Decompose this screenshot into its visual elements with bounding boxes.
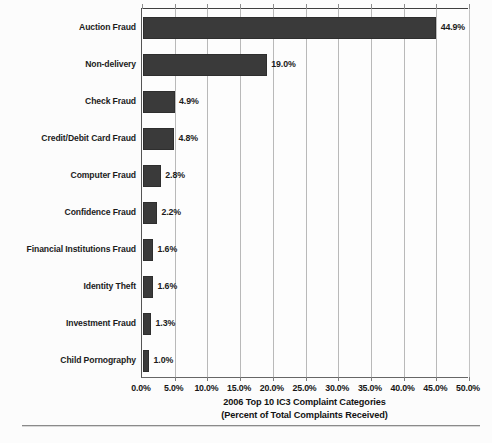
chart-title-block: 2006 Top 10 IC3 Complaint Categories (Pe… xyxy=(141,396,468,422)
x-tick-label: 0.0% xyxy=(131,383,150,393)
x-tick-label: 20.0% xyxy=(260,383,284,393)
x-axis-tick-labels: 0.0%5.0%10.0%15.0%20.0%25.0%30.0%35.0%40… xyxy=(141,383,468,397)
value-label: 2.8% xyxy=(165,170,185,180)
x-tick-label: 10.0% xyxy=(194,383,218,393)
category-label: Non-delivery xyxy=(85,59,136,69)
category-label: Auction Fraud xyxy=(79,22,136,32)
category-label: Financial Institutions Fraud xyxy=(27,244,136,254)
x-tick-label: 30.0% xyxy=(325,383,349,393)
plot-area: Auction Fraud44.9%Non-delivery19.0%Check… xyxy=(141,8,468,378)
x-tick-label: 35.0% xyxy=(358,383,382,393)
value-label: 1.6% xyxy=(157,281,177,291)
bar xyxy=(143,350,150,372)
bar-row: Computer Fraud2.8% xyxy=(142,157,468,194)
bar xyxy=(143,165,161,187)
bar xyxy=(143,54,267,76)
x-tick-label: 40.0% xyxy=(391,383,415,393)
axis-tick-mark xyxy=(469,377,470,381)
bar-row: Non-delivery19.0% xyxy=(142,46,468,83)
bar-row: Auction Fraud44.9% xyxy=(142,9,468,46)
category-label: Child Pornography xyxy=(60,355,136,365)
bar-row: Confidence Fraud2.2% xyxy=(142,194,468,231)
bar-row: Investment Fraud1.3% xyxy=(142,305,468,342)
value-label: 1.0% xyxy=(154,355,174,365)
value-label: 4.8% xyxy=(178,133,198,143)
bar-row: Child Pornography1.0% xyxy=(142,342,468,379)
bar-row: Check Fraud4.9% xyxy=(142,83,468,120)
category-label: Identity Theft xyxy=(83,281,136,291)
value-label: 1.6% xyxy=(157,244,177,254)
chart-subtitle: (Percent of Total Complaints Received) xyxy=(141,409,468,422)
bar xyxy=(143,91,175,113)
bar xyxy=(143,17,437,39)
x-tick-label: 15.0% xyxy=(227,383,251,393)
axis-tick-mark xyxy=(469,4,470,9)
bar xyxy=(143,276,153,298)
x-tick-label: 5.0% xyxy=(164,383,183,393)
category-label: Check Fraud xyxy=(85,96,136,106)
bar-row: Financial Institutions Fraud1.6% xyxy=(142,231,468,268)
bar-row: Identity Theft1.6% xyxy=(142,268,468,305)
gridline xyxy=(469,9,470,377)
bar xyxy=(143,202,157,224)
bar xyxy=(143,128,174,150)
category-label: Computer Fraud xyxy=(71,170,136,180)
category-label: Confidence Fraud xyxy=(65,207,136,217)
x-tick-label: 45.0% xyxy=(423,383,447,393)
category-label: Investment Fraud xyxy=(66,318,136,328)
x-tick-label: 25.0% xyxy=(293,383,317,393)
bar xyxy=(143,313,152,335)
x-tick-label: 50.0% xyxy=(456,383,480,393)
bar-row: Credit/Debit Card Fraud4.8% xyxy=(142,120,468,157)
category-label: Credit/Debit Card Fraud xyxy=(41,133,136,143)
bottom-divider-rule xyxy=(22,425,480,427)
value-label: 1.3% xyxy=(156,318,176,328)
value-label: 4.9% xyxy=(179,96,199,106)
bar xyxy=(143,239,153,261)
value-label: 19.0% xyxy=(271,59,295,69)
value-label: 2.2% xyxy=(161,207,181,217)
value-label: 44.9% xyxy=(441,22,465,32)
chart-title: 2006 Top 10 IC3 Complaint Categories xyxy=(141,396,468,409)
chart-figure: Auction Fraud44.9%Non-delivery19.0%Check… xyxy=(0,0,492,443)
